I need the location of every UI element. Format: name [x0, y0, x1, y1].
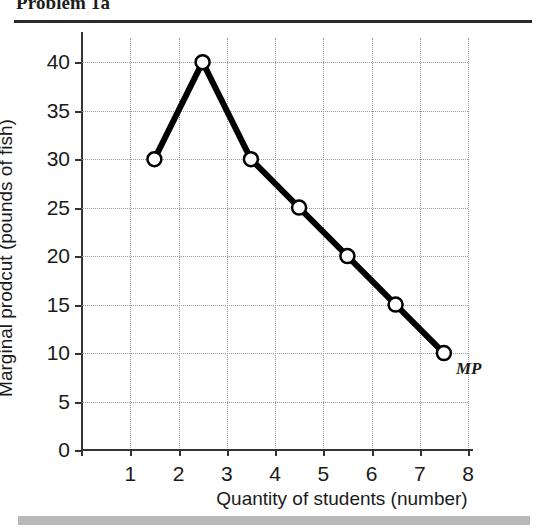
page-title: Problem 1a	[16, 0, 110, 14]
data-point-marker	[147, 152, 161, 166]
x-tick	[323, 449, 325, 456]
y-tick	[75, 256, 82, 258]
y-tick-label: 0	[58, 438, 70, 462]
x-tick	[275, 449, 277, 456]
y-tick	[75, 402, 82, 404]
data-point-marker	[389, 298, 403, 312]
x-tick-label: 1	[124, 462, 136, 486]
y-tick	[75, 450, 82, 452]
series-label-mp: MP	[456, 359, 482, 379]
data-point-marker	[196, 55, 210, 69]
plot-area: 0510152025303540 12345678 MP	[82, 38, 468, 450]
y-tick-label: 35	[47, 99, 70, 123]
chart-figure: Marginal prodcut (pounds of fish) Quanti…	[0, 22, 547, 516]
y-tick	[75, 208, 82, 210]
x-tick	[420, 449, 422, 456]
gridline-vertical	[468, 38, 469, 450]
y-tick-label: 40	[47, 50, 70, 74]
data-point-marker	[437, 346, 451, 360]
x-tick	[372, 449, 374, 456]
data-point-marker	[244, 152, 258, 166]
data-point-marker	[340, 249, 354, 263]
x-tick	[227, 449, 229, 456]
y-tick-label: 15	[47, 293, 70, 317]
y-tick-label: 20	[47, 244, 70, 268]
x-tick-label: 4	[269, 462, 281, 486]
x-tick	[468, 449, 470, 456]
x-tick-label: 5	[317, 462, 329, 486]
x-tick-label: 7	[414, 462, 426, 486]
data-point-marker	[292, 201, 306, 215]
y-tick-label: 30	[47, 147, 70, 171]
y-tick-label: 10	[47, 341, 70, 365]
x-tick	[130, 449, 132, 456]
y-tick-label: 5	[58, 390, 70, 414]
y-tick-label: 25	[47, 196, 70, 220]
x-tick-label: 2	[173, 462, 185, 486]
y-tick	[75, 305, 82, 307]
footer-bar	[18, 516, 530, 525]
x-tick-label: 6	[366, 462, 378, 486]
x-tick-label: 3	[221, 462, 233, 486]
x-tick-label: 8	[462, 462, 474, 486]
y-tick	[75, 159, 82, 161]
y-tick	[75, 62, 82, 64]
y-tick	[75, 111, 82, 113]
x-tick	[179, 449, 181, 456]
series-mp-line	[82, 38, 468, 450]
y-axis-title: Marginal prodcut (pounds of fish)	[0, 119, 17, 397]
x-axis-title: Quantity of students (number)	[216, 488, 467, 510]
y-tick	[75, 353, 82, 355]
